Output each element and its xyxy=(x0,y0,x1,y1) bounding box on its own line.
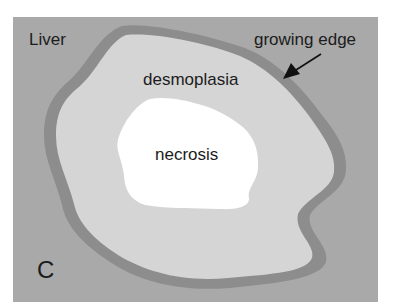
growing-edge-label: growing edge xyxy=(254,30,356,49)
desmoplasia-label: desmoplasia xyxy=(143,70,239,89)
panel-letter: C xyxy=(37,256,54,283)
necrosis-label: necrosis xyxy=(155,145,218,164)
tumor-diagram: Liver growing edge desmoplasia necrosis … xyxy=(0,0,394,304)
liver-label: Liver xyxy=(29,30,66,49)
